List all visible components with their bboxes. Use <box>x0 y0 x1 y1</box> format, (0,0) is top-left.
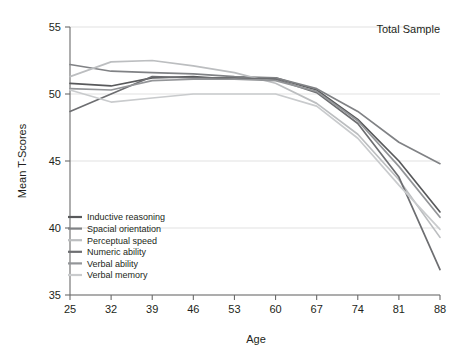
legend-label-inductive-reasoning: Inductive reasoning <box>87 212 165 222</box>
x-tick-label-81: 81 <box>393 303 405 315</box>
y-axis-title: Mean T-Scores <box>16 123 28 198</box>
legend-label-verbal-ability: Verbal ability <box>87 259 139 269</box>
x-tick-label-39: 39 <box>146 303 158 315</box>
x-tick-label-74: 74 <box>352 303 364 315</box>
y-tick-label-35: 35 <box>49 289 61 301</box>
y-tick-label-40: 40 <box>49 222 61 234</box>
x-tick-label-60: 60 <box>269 303 281 315</box>
panel-title: Total Sample <box>376 23 440 35</box>
x-tick-label-53: 53 <box>228 303 240 315</box>
x-tick-label-67: 67 <box>311 303 323 315</box>
x-tick-label-32: 32 <box>105 303 117 315</box>
legend-label-perceptual-speed: Perceptual speed <box>87 236 157 246</box>
legend-label-verbal-memory: Verbal memory <box>87 270 148 280</box>
y-tick-label-55: 55 <box>49 21 61 33</box>
x-tick-label-88: 88 <box>434 303 446 315</box>
legend-label-spacial-orientation: Spacial orientation <box>87 224 161 234</box>
x-tick-label-25: 25 <box>64 303 76 315</box>
chart-container: 3540455055 25323946536067748188 Mean T-S… <box>0 0 464 354</box>
legend-label-numeric-ability: Numeric ability <box>87 247 147 257</box>
y-tick-label-50: 50 <box>49 88 61 100</box>
x-tick-label-46: 46 <box>187 303 199 315</box>
x-axis-title: Age <box>246 333 266 345</box>
line-chart: 3540455055 25323946536067748188 Mean T-S… <box>0 0 464 354</box>
y-tick-label-45: 45 <box>49 155 61 167</box>
